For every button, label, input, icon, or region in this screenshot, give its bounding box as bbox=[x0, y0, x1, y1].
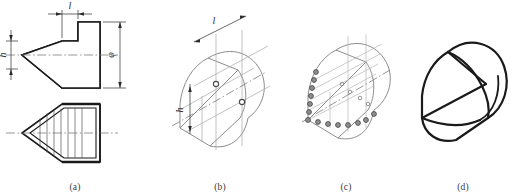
panel-caption-c: (c) bbox=[290, 182, 402, 192]
dimension-label-phi: φ bbox=[105, 52, 116, 58]
panel-caption-b: (b) bbox=[150, 182, 290, 192]
plotted-point bbox=[308, 102, 313, 107]
dimension-h-b bbox=[188, 84, 192, 134]
plotted-point bbox=[356, 121, 361, 126]
arrow-l-left bbox=[56, 12, 62, 16]
iso-front-face-b bbox=[180, 58, 208, 128]
dimension-label-h: h bbox=[0, 53, 8, 58]
iso-centerline-b bbox=[172, 72, 266, 126]
plotted-point bbox=[316, 120, 321, 125]
dimension-label-h-b: h bbox=[174, 108, 185, 113]
arrow-l-b-right bbox=[240, 15, 246, 19]
arrow-phi-bottom bbox=[118, 82, 122, 88]
panel-b: l h (b) bbox=[150, 0, 290, 196]
key-point bbox=[239, 99, 244, 104]
plotted-point bbox=[346, 123, 351, 128]
panel-caption-d: (d) bbox=[402, 182, 524, 192]
plotted-point bbox=[358, 96, 362, 100]
plotted-point bbox=[309, 94, 314, 99]
plotted-point bbox=[366, 102, 370, 106]
key-point bbox=[213, 81, 218, 86]
arrow-h-b-top bbox=[188, 86, 192, 92]
arrow-l-right bbox=[78, 12, 84, 16]
panel-d: (d) bbox=[402, 0, 524, 196]
final-solid-d bbox=[422, 43, 507, 141]
arrow-h-bottom bbox=[9, 69, 13, 75]
dimension-label-l-b: l bbox=[213, 15, 216, 26]
plotted-point bbox=[348, 90, 352, 94]
iso-interior-lower-b bbox=[210, 118, 240, 146]
point-series-inner bbox=[340, 82, 370, 106]
plotted-point bbox=[336, 123, 341, 128]
iso-body-b bbox=[180, 51, 264, 146]
iso-interior-lower-c bbox=[338, 110, 368, 138]
arrow-phi-top bbox=[118, 22, 122, 28]
dimension-label-l: l bbox=[69, 0, 72, 11]
plotted-point bbox=[307, 110, 312, 115]
plotted-point bbox=[314, 70, 319, 75]
plotted-point bbox=[372, 112, 377, 117]
arrow-h-top bbox=[9, 35, 13, 41]
figure-sheet: l h φ bbox=[0, 0, 524, 196]
dim-line-l-b bbox=[194, 16, 246, 42]
panel-a: l h φ bbox=[0, 0, 150, 196]
final-outline-d bbox=[422, 43, 507, 141]
panel-caption-a: (a) bbox=[0, 182, 150, 192]
plotted-point bbox=[310, 86, 315, 91]
plotted-point bbox=[312, 78, 317, 83]
arrow-l-b-left bbox=[194, 39, 200, 43]
point-series-base bbox=[316, 112, 377, 128]
plotted-point bbox=[306, 118, 311, 123]
plotted-point bbox=[364, 118, 369, 123]
dimension-l-b bbox=[194, 15, 246, 42]
iso-wedge-upper-b bbox=[208, 58, 238, 70]
plotted-point bbox=[326, 122, 331, 127]
panel-c: (c) bbox=[290, 0, 402, 196]
